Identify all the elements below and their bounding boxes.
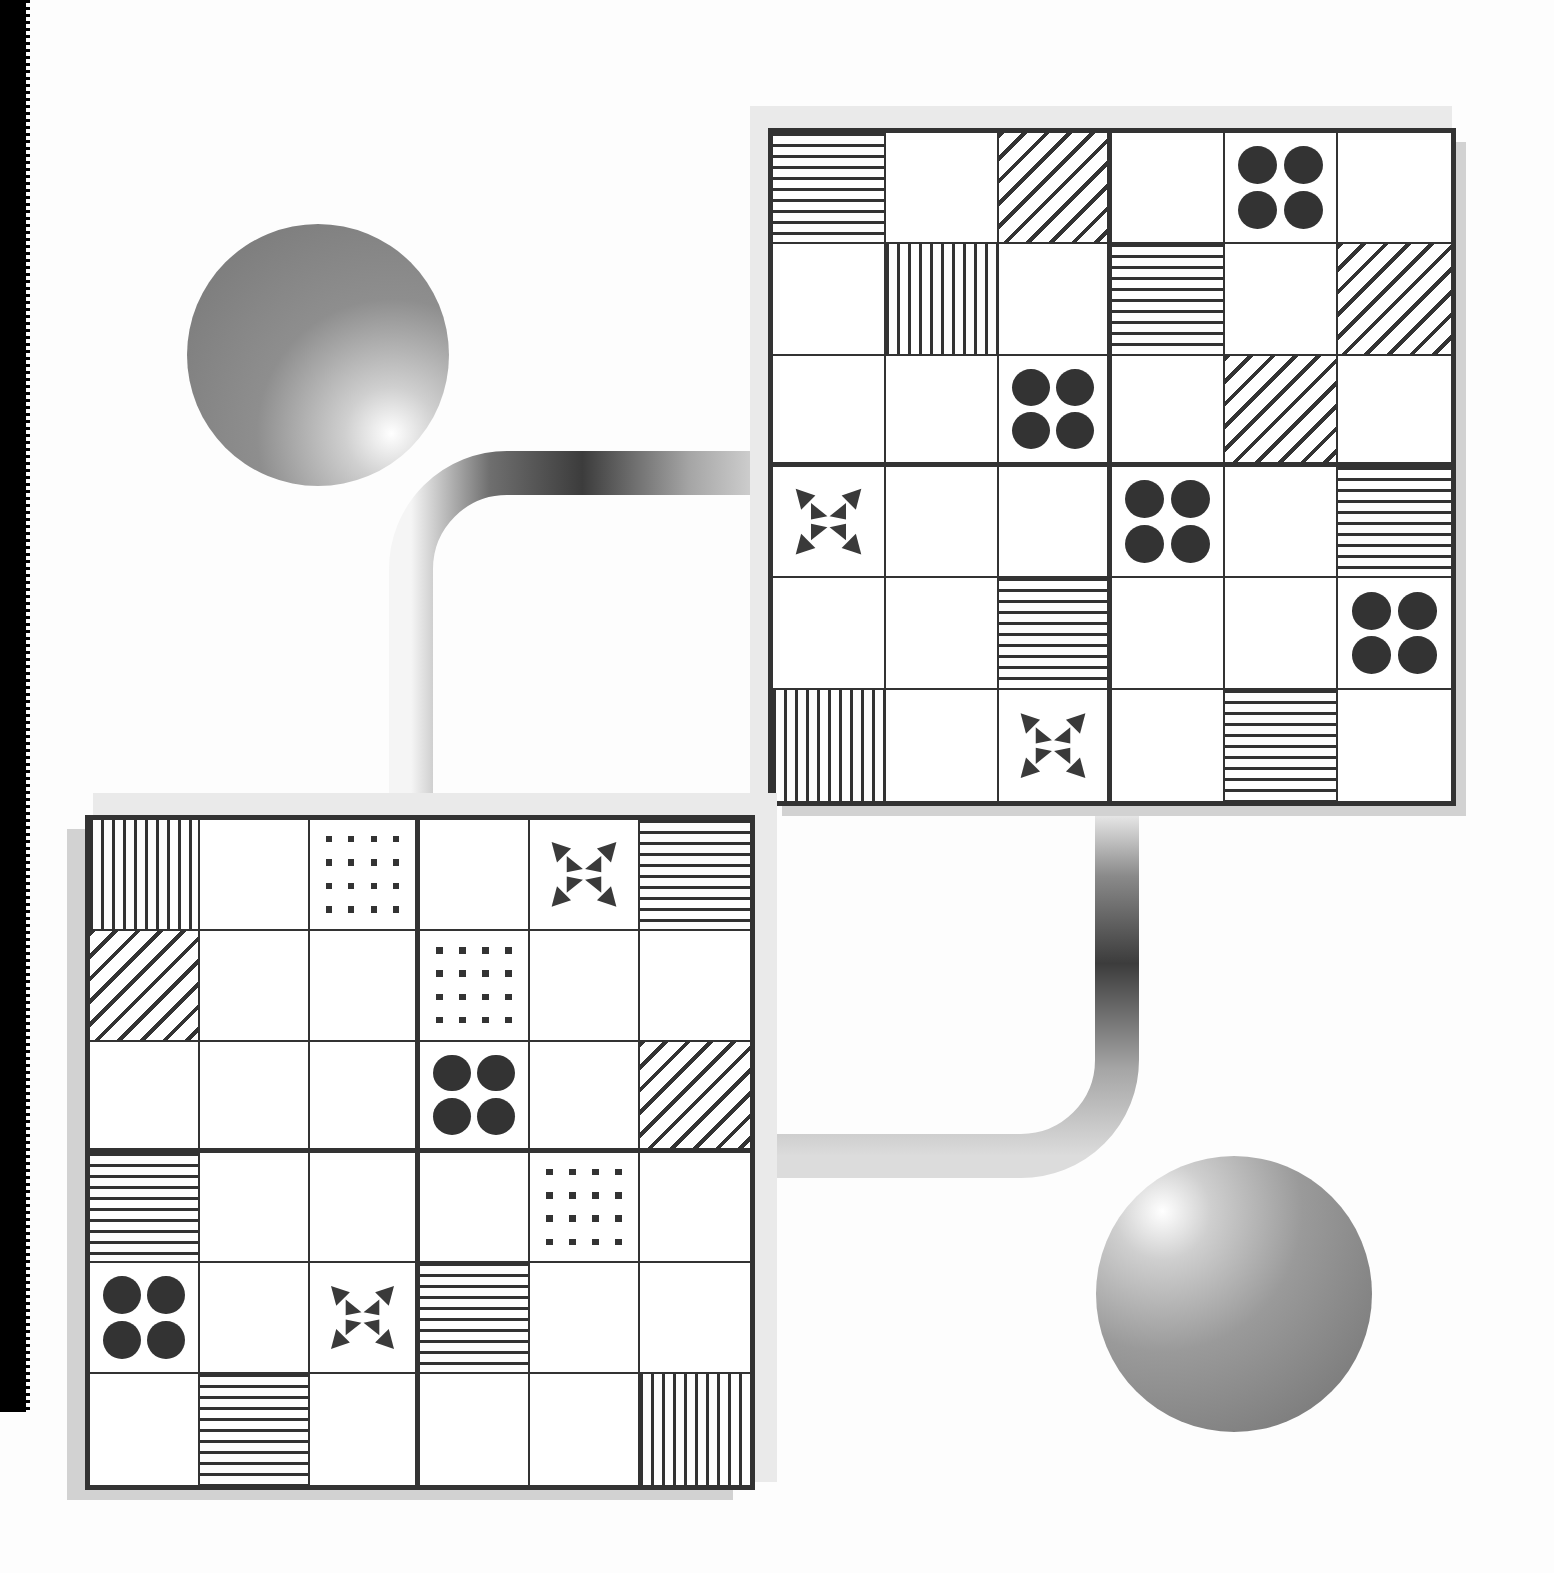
- dot: [1284, 191, 1323, 229]
- horizontal-stripes-icon: [420, 1263, 528, 1372]
- grid-cell-r1-c1[interactable]: [773, 133, 886, 244]
- grid-cell-r2-c4[interactable]: [1112, 244, 1225, 355]
- square: [592, 1169, 598, 1176]
- pipe-upper-elbow: [411, 473, 768, 835]
- grid-cell-r3-c1[interactable]: [90, 1042, 200, 1153]
- grid-cell-r5-c5[interactable]: [530, 1263, 640, 1374]
- dot: [1056, 369, 1094, 406]
- grid-cell-r2-c2[interactable]: [886, 244, 999, 355]
- bottom-left-grid[interactable]: [85, 815, 755, 1490]
- grid-cell-r4-c5[interactable]: [530, 1153, 640, 1264]
- grid-cell-r4-c6[interactable]: [640, 1153, 750, 1264]
- square: [615, 1169, 621, 1176]
- grid-cell-r1-c2[interactable]: [886, 133, 999, 244]
- top-right-grid[interactable]: [768, 128, 1456, 806]
- grid-cell-r2-c4[interactable]: [420, 931, 530, 1042]
- diagonal-hatch-icon: [1338, 244, 1451, 353]
- dot: [1238, 191, 1277, 229]
- eight-triangles-pinwheel-icon: [530, 820, 638, 929]
- grid-cell-r4-c5[interactable]: [1225, 467, 1338, 578]
- grid-cell-r6-c1[interactable]: [90, 1374, 200, 1485]
- grid-cell-r4-c1[interactable]: [90, 1153, 200, 1264]
- grid-cell-r6-c5[interactable]: [530, 1374, 640, 1485]
- grid-cell-r2-c6[interactable]: [1338, 244, 1451, 355]
- grid-cell-r4-c3[interactable]: [999, 467, 1112, 578]
- dot: [103, 1276, 141, 1314]
- grid-cell-r3-c2[interactable]: [200, 1042, 310, 1153]
- dot: [1171, 480, 1210, 518]
- grid-cell-r5-c6[interactable]: [1338, 578, 1451, 689]
- square: [436, 947, 442, 954]
- grid-cell-r6-c1[interactable]: [773, 690, 886, 801]
- grid-cell-r2-c1[interactable]: [90, 931, 200, 1042]
- pipe-lower-elbow: [757, 806, 1117, 1156]
- square: [615, 1215, 621, 1222]
- grid-cell-r4-c2[interactable]: [886, 467, 999, 578]
- grid-cell-r6-c3[interactable]: [999, 690, 1112, 801]
- grid-cell-r5-c2[interactable]: [200, 1263, 310, 1374]
- grid-cell-r1-c6[interactable]: [1338, 133, 1451, 244]
- grid-cell-r3-c6[interactable]: [640, 1042, 750, 1153]
- square: [505, 1017, 511, 1024]
- grid-cell-r1-c5[interactable]: [1225, 133, 1338, 244]
- top-right-grid-card[interactable]: [738, 98, 1486, 836]
- grid-cell-r2-c3[interactable]: [999, 244, 1112, 355]
- grid-cell-r5-c5[interactable]: [1225, 578, 1338, 689]
- grid-cell-r3-c6[interactable]: [1338, 356, 1451, 467]
- grid-cell-r2-c5[interactable]: [1225, 244, 1338, 355]
- grid-cell-r1-c3[interactable]: [999, 133, 1112, 244]
- grid-cell-r3-c3[interactable]: [310, 1042, 420, 1153]
- grid-cell-r6-c6[interactable]: [1338, 690, 1451, 801]
- grid-cell-r1-c4[interactable]: [420, 820, 530, 931]
- grid-cell-r3-c3[interactable]: [999, 356, 1112, 467]
- grid-cell-r2-c1[interactable]: [773, 244, 886, 355]
- grid-cell-r5-c1[interactable]: [773, 578, 886, 689]
- grid-cell-r4-c3[interactable]: [310, 1153, 420, 1264]
- grid-cell-r1-c2[interactable]: [200, 820, 310, 931]
- grid-cell-r4-c4[interactable]: [1112, 467, 1225, 578]
- grid-cell-r3-c2[interactable]: [886, 356, 999, 467]
- grid-cell-r2-c6[interactable]: [640, 931, 750, 1042]
- grid-cell-r1-c5[interactable]: [530, 820, 640, 931]
- grid-cell-r5-c3[interactable]: [310, 1263, 420, 1374]
- grid-cell-r3-c1[interactable]: [773, 356, 886, 467]
- grid-cell-r3-c5[interactable]: [530, 1042, 640, 1153]
- grid-cell-r5-c4[interactable]: [1112, 578, 1225, 689]
- grid-cell-r3-c4[interactable]: [420, 1042, 530, 1153]
- square: [393, 883, 399, 890]
- dot: [147, 1276, 185, 1314]
- grid-cell-r2-c5[interactable]: [530, 931, 640, 1042]
- grid-cell-r6-c4[interactable]: [1112, 690, 1225, 801]
- grid-cell-r4-c1[interactable]: [773, 467, 886, 578]
- square: [459, 970, 465, 977]
- grid-cell-r6-c2[interactable]: [200, 1374, 310, 1485]
- grid-cell-r1-c4[interactable]: [1112, 133, 1225, 244]
- grid-cell-r3-c5[interactable]: [1225, 356, 1338, 467]
- grid-cell-r6-c3[interactable]: [310, 1374, 420, 1485]
- grid-cell-r4-c6[interactable]: [1338, 467, 1451, 578]
- grid-cell-r3-c4[interactable]: [1112, 356, 1225, 467]
- grid-cell-r5-c6[interactable]: [640, 1263, 750, 1374]
- grid-cell-r6-c2[interactable]: [886, 690, 999, 801]
- grid-cell-r1-c6[interactable]: [640, 820, 750, 931]
- grid-cell-r6-c6[interactable]: [640, 1374, 750, 1485]
- square: [592, 1215, 598, 1222]
- square: [326, 883, 332, 890]
- grid-cell-r6-c5[interactable]: [1225, 690, 1338, 801]
- grid-cell-r5-c2[interactable]: [886, 578, 999, 689]
- square: [546, 1192, 552, 1199]
- square: [569, 1192, 575, 1199]
- grid-cell-r1-c1[interactable]: [90, 820, 200, 931]
- grid-cell-r2-c2[interactable]: [200, 931, 310, 1042]
- grid-cell-r4-c2[interactable]: [200, 1153, 310, 1264]
- grid-cell-r6-c4[interactable]: [420, 1374, 530, 1485]
- square: [482, 994, 488, 1001]
- grid-cell-r1-c3[interactable]: [310, 820, 420, 931]
- square: [371, 859, 377, 866]
- grid-cell-r2-c3[interactable]: [310, 931, 420, 1042]
- grid-cell-r4-c4[interactable]: [420, 1153, 530, 1264]
- grid-cell-r5-c4[interactable]: [420, 1263, 530, 1374]
- grid-cell-r5-c1[interactable]: [90, 1263, 200, 1374]
- bottom-left-grid-card[interactable]: [55, 785, 785, 1520]
- grid-cell-r5-c3[interactable]: [999, 578, 1112, 689]
